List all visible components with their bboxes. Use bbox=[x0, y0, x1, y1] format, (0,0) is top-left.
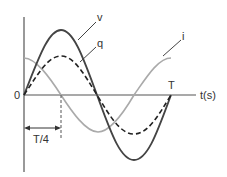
curve-q-label: q bbox=[97, 37, 103, 49]
leader-v bbox=[78, 22, 96, 40]
arrowhead-left-icon bbox=[24, 126, 30, 131]
arrowhead-right-icon bbox=[55, 126, 61, 131]
x-axis-label: t(s) bbox=[200, 89, 216, 101]
origin-label: 0 bbox=[14, 89, 20, 101]
curve-i-label: i bbox=[182, 30, 184, 42]
leader-i bbox=[163, 40, 181, 56]
phase-diagram: 0 t(s) T T/4 v q i bbox=[0, 0, 227, 177]
quarter-period-label: T/4 bbox=[33, 133, 49, 145]
leader-q bbox=[80, 47, 96, 62]
curve-v-label: v bbox=[97, 11, 103, 23]
period-label: T bbox=[168, 79, 175, 91]
